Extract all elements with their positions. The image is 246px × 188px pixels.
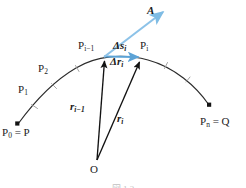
label-point-p-curr-sub: i (146, 44, 148, 53)
label-vector-r-curr: ri (117, 113, 123, 125)
label-vector-r-prev: ri−1 (70, 101, 85, 113)
label-vector-r-prev-sub: i−1 (74, 105, 84, 114)
figure-canvas: A Pi−1 Δsi Pi Δri P2 P1 P0 = P Pn = Q ri… (0, 0, 246, 188)
label-origin: O (90, 164, 98, 175)
label-delta-r: Δri (110, 56, 123, 68)
label-point-p-prev-sub: i−1 (84, 44, 94, 53)
label-point-p-end: Pn = Q (200, 116, 230, 128)
diagram-svg (0, 0, 246, 188)
label-delta-s-base: Δs (113, 39, 124, 51)
label-point-p-curr: Pi (140, 40, 148, 52)
label-vector-A: A (147, 5, 154, 16)
label-point-p2-sub: 2 (44, 67, 48, 76)
label-point-p-end-eq: = Q (210, 115, 230, 127)
label-point-p-start-eq: = P (12, 126, 30, 138)
label-delta-s-sub: i (124, 44, 126, 53)
label-point-p1: P1 (18, 84, 28, 96)
figure-caption: 図 1.2 (0, 182, 246, 188)
label-point-p-start: P0 = P (2, 127, 30, 139)
label-vector-r-curr-sub: i (121, 117, 123, 126)
label-point-p1-sub: 1 (24, 88, 28, 97)
label-delta-r-base: Δr (110, 55, 121, 67)
label-point-p-prev: Pi−1 (78, 40, 94, 52)
label-point-p2: P2 (38, 63, 48, 75)
partition-ticks (32, 63, 191, 109)
label-delta-r-sub: i (121, 60, 123, 69)
label-delta-s: Δsi (113, 40, 126, 52)
